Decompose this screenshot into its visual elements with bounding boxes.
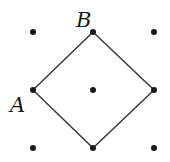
- lattice-diagram: B A: [0, 0, 170, 162]
- lattice-dot: [30, 87, 36, 93]
- lattice-dot: [151, 87, 157, 93]
- label-a: A: [8, 93, 25, 117]
- lattice-dot: [90, 87, 96, 93]
- lattice-dot: [90, 145, 96, 151]
- label-b: B: [75, 8, 91, 32]
- lattice-dot: [30, 29, 36, 35]
- lattice-dot: [30, 145, 36, 151]
- lattice-dot: [151, 145, 157, 151]
- lattice-dots: [30, 29, 157, 151]
- lattice-dot: [151, 29, 157, 35]
